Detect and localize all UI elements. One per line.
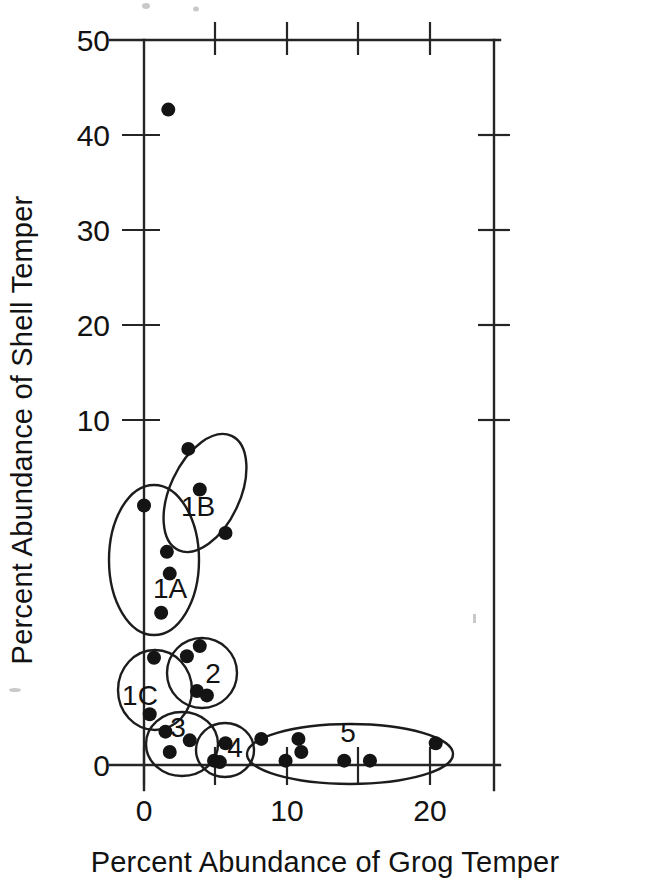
data-point — [279, 754, 293, 768]
cluster-label-3: 3 — [170, 712, 186, 743]
cluster-label-4: 4 — [227, 732, 243, 763]
y-tick-label-20: 20 — [77, 309, 110, 342]
x-tick-label-0: 0 — [136, 794, 153, 827]
data-point — [213, 755, 227, 769]
data-point — [254, 732, 268, 746]
cluster-label-1A: 1A — [153, 573, 188, 604]
x-axis-tick-labels: 0 10 20 — [136, 794, 447, 827]
data-point — [137, 498, 151, 512]
y-tick-label-50: 50 — [77, 24, 110, 57]
data-point — [429, 736, 443, 750]
cluster-label-5: 5 — [340, 717, 356, 748]
x-tick-label-20: 20 — [413, 794, 446, 827]
data-point — [161, 103, 175, 117]
data-point — [294, 745, 308, 759]
data-points — [137, 103, 443, 770]
data-point — [219, 526, 233, 540]
plot-canvas: 50 40 30 20 10 0 0 10 20 Percent Ab — [0, 0, 651, 891]
y-tick-label-40: 40 — [77, 119, 110, 152]
y-tick-label-0: 0 — [93, 749, 110, 782]
cluster-label-1B: 1B — [181, 491, 215, 522]
scatter-plot-figure: 50 40 30 20 10 0 0 10 20 Percent Ab — [0, 0, 651, 891]
data-point — [193, 639, 207, 653]
data-point — [180, 649, 194, 663]
y-tick-label-10: 10 — [77, 404, 110, 437]
y-axis-title: Percent Abundance of Shell Temper — [6, 195, 38, 664]
cluster-label-2: 2 — [205, 658, 221, 689]
data-point — [154, 606, 168, 620]
data-point — [337, 754, 351, 768]
scan-artifacts — [9, 3, 476, 692]
data-point — [160, 545, 174, 559]
data-point — [200, 688, 214, 702]
data-point — [181, 442, 195, 456]
y-axis-tick-labels: 50 40 30 20 10 0 — [77, 24, 110, 782]
y-tick-label-30: 30 — [77, 214, 110, 247]
data-point — [363, 754, 377, 768]
data-point — [291, 732, 305, 746]
data-point — [147, 651, 161, 665]
cluster-label-1C: 1C — [122, 680, 158, 711]
data-point — [163, 745, 177, 759]
x-axis-title: Percent Abundance of Grog Temper — [91, 846, 560, 878]
x-tick-label-10: 10 — [270, 794, 303, 827]
